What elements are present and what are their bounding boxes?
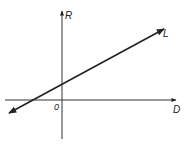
y-axis-label: R	[65, 10, 72, 21]
line-label: L	[163, 28, 169, 39]
origin-label: 0	[54, 102, 59, 112]
x-axis-label: D	[173, 104, 180, 115]
diagram-canvas: R L D 0	[0, 0, 189, 144]
